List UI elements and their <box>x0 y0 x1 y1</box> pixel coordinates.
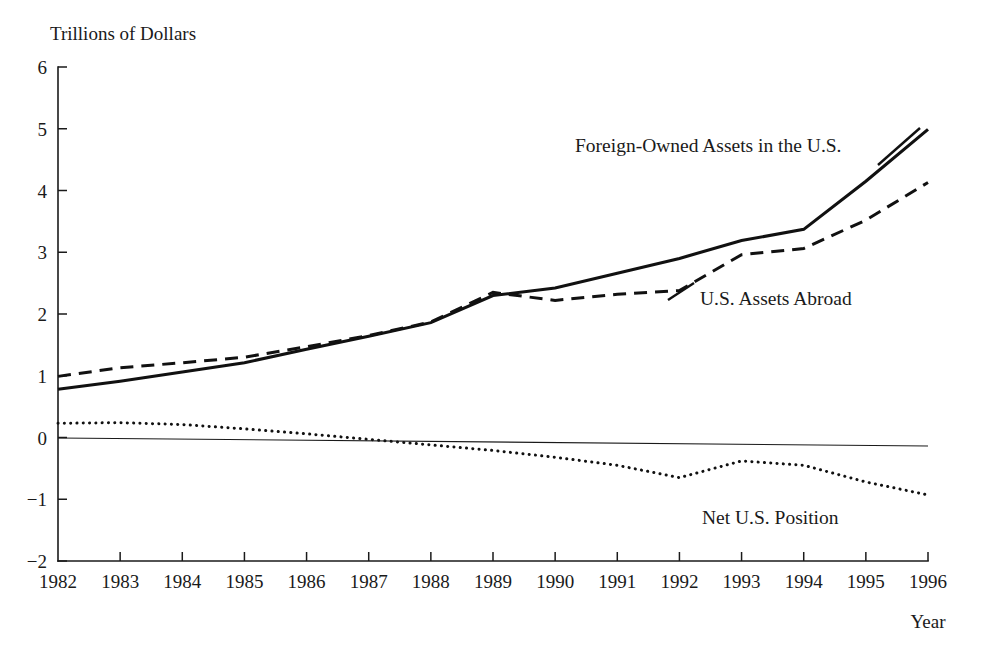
series-annotations: Foreign-Owned Assets in the U.S.U.S. Ass… <box>575 128 920 528</box>
annotation-leader-line <box>878 128 920 165</box>
y-tick-label: 4 <box>38 181 48 202</box>
x-tick-label: 1984 <box>163 571 202 592</box>
series-label-2: Net U.S. Position <box>702 507 839 528</box>
y-tick-label: 0 <box>38 428 48 449</box>
y-tick-label: −1 <box>27 489 47 510</box>
x-tick-label: 1989 <box>474 571 512 592</box>
x-tick-label: 1994 <box>785 571 824 592</box>
x-tick-label: 1987 <box>350 571 388 592</box>
x-tick-label: 1986 <box>288 571 326 592</box>
y-tick-label: 2 <box>38 304 48 325</box>
y-tick-label: −2 <box>27 551 47 572</box>
y-axis-ticks: −2−10123456 <box>27 57 67 572</box>
x-tick-label: 1990 <box>536 571 574 592</box>
data-series-group <box>58 129 928 495</box>
series-line-dashed <box>58 182 928 376</box>
x-axis-ticks: 1982198319841985198619871988198919901991… <box>39 552 947 592</box>
x-tick-label: 1991 <box>598 571 636 592</box>
y-tick-label: 1 <box>38 366 48 387</box>
chart-container: Trillions of Dollars −2−10123456 1982198… <box>0 0 983 657</box>
x-axis-title: Year <box>910 611 946 632</box>
x-tick-label: 1996 <box>909 571 947 592</box>
y-tick-label: 5 <box>38 119 48 140</box>
y-tick-label: 6 <box>38 57 48 78</box>
x-tick-label: 1988 <box>412 571 450 592</box>
x-tick-label: 1993 <box>723 571 761 592</box>
series-line-dotted <box>58 423 928 495</box>
series-line-solid <box>58 129 928 389</box>
x-tick-label: 1982 <box>39 571 77 592</box>
x-tick-label: 1995 <box>847 571 885 592</box>
series-label-0: Foreign-Owned Assets in the U.S. <box>575 135 842 156</box>
x-tick-label: 1983 <box>101 571 139 592</box>
series-label-1: U.S. Assets Abroad <box>700 288 852 309</box>
zero-reference-line <box>58 438 928 446</box>
annotation-leader-line <box>668 283 694 300</box>
line-chart: Trillions of Dollars −2−10123456 1982198… <box>0 0 983 657</box>
chart-title: Trillions of Dollars <box>50 23 196 44</box>
y-tick-label: 3 <box>38 242 48 263</box>
x-tick-label: 1985 <box>225 571 263 592</box>
x-tick-label: 1992 <box>660 571 698 592</box>
